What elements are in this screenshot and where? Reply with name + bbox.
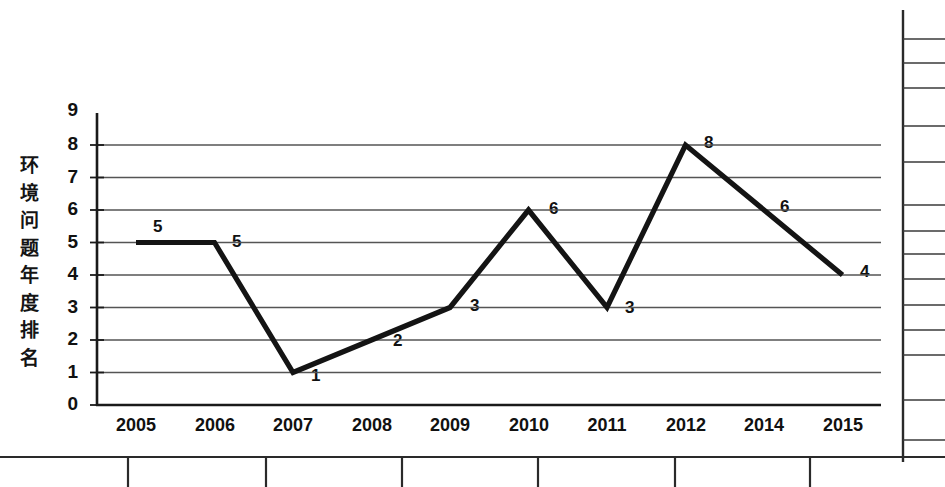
chart-page: 环境问题年度排名 9 8 7 6 5 4 3 2 1 0 2005 2006 2… bbox=[0, 0, 945, 487]
page-edge-rule-bottom bbox=[0, 0, 945, 487]
